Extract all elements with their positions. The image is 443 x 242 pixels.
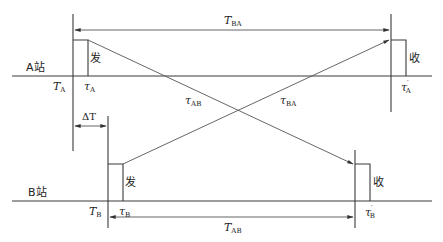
tau-ba-label: τBA: [280, 95, 296, 108]
delta-t-label: ΔT: [82, 112, 96, 122]
timing-diagram: [0, 0, 443, 242]
t-ba-label: TBA: [224, 15, 242, 28]
t-b-label: TB: [89, 206, 102, 219]
signal-path-b-to-a: [123, 40, 389, 164]
station-b-receive-pulse: [355, 164, 370, 201]
tau-b-prime-label: τ′B: [365, 205, 375, 220]
station-b-send-pulse: [108, 164, 123, 201]
tau-a-label: τA: [84, 81, 95, 94]
tau-a-prime-label: τ′A: [401, 80, 411, 95]
station-b-send-label: 发: [125, 177, 136, 188]
station-a-receive-label: 收: [409, 53, 420, 64]
station-a-send-pulse: [73, 40, 88, 76]
station-b-label: B站: [28, 187, 47, 198]
station-b-receive-label: 收: [373, 177, 384, 188]
tau-b-label: τB: [119, 206, 130, 219]
station-a-label: A站: [26, 62, 45, 73]
signal-path-a-to-b: [88, 40, 353, 164]
station-a-receive-pulse: [391, 40, 406, 76]
t-ab-label: TAB: [224, 222, 242, 235]
t-a-label: TA: [53, 81, 65, 94]
station-a-send-label: 发: [90, 53, 101, 64]
tau-ab-label: τAB: [185, 95, 201, 108]
